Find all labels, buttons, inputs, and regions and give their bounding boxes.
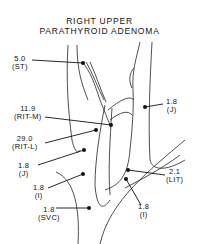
site: (LIT) (166, 176, 183, 184)
label-rit-l: 29.0 (RIT-L) (12, 135, 37, 151)
label-svc: 1.8 (SVC) (38, 206, 60, 222)
label-st: 5.0 (ST) (12, 55, 28, 71)
site: (J) (166, 106, 177, 114)
site: (SVC) (38, 214, 60, 222)
label-rit-m: 11.9 (RIT-M) (14, 105, 42, 121)
label-j-right: 1.8 (J) (166, 98, 177, 114)
site: (I) (138, 211, 149, 219)
label-i-left: 1.8 (I) (33, 184, 44, 200)
site: (ST) (12, 63, 28, 71)
site: (J) (18, 170, 29, 178)
label-j-left: 1.8 (J) (18, 162, 29, 178)
site: (RIT-L) (12, 143, 37, 151)
site: (RIT-M) (14, 113, 42, 121)
label-i-right: 1.8 (I) (138, 203, 149, 219)
label-lit: 2.1 (LIT) (166, 168, 183, 184)
site: (I) (33, 192, 44, 200)
venous-anatomy-diagram (0, 0, 199, 244)
